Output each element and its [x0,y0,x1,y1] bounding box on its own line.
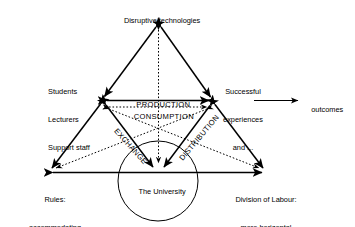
consumption-text: CONSUMPTION [134,112,194,121]
outcome-text: outcomes [311,105,343,114]
node-label-top-text: Disruptive technologies [124,16,200,25]
node-label-community: The University [118,178,198,206]
subject-line-2: Lecturers [48,115,106,124]
node-label-disruptive-technologies: Disruptive technologies [92,7,224,35]
division-line-1: Division of Labour: [211,195,321,204]
rules-line-2: accommodating [9,223,101,227]
edge-artefact-object [161,27,211,97]
object-line-3: and ... [213,143,273,152]
node-label-subject: Students Lecturers Support staff [48,69,106,170]
division-line-2: more horizontal [211,223,321,227]
activity-system-diagram: Disruptive technologies Students Lecture… [0,0,355,227]
subject-line-3: Support staff [48,143,106,152]
edge-artefact-subject [105,27,157,97]
node-label-division-of-labour: Division of Labour: more horizontal [211,177,321,227]
community-text: The University [138,187,185,196]
subject-line-1: Students [48,87,106,96]
node-label-outcome: outcomes [303,96,355,124]
node-label-rules: Rules: accommodating disruptive technolo… [9,177,101,227]
rules-line-1: Rules: [9,195,101,204]
object-line-1: Successful [213,87,273,96]
